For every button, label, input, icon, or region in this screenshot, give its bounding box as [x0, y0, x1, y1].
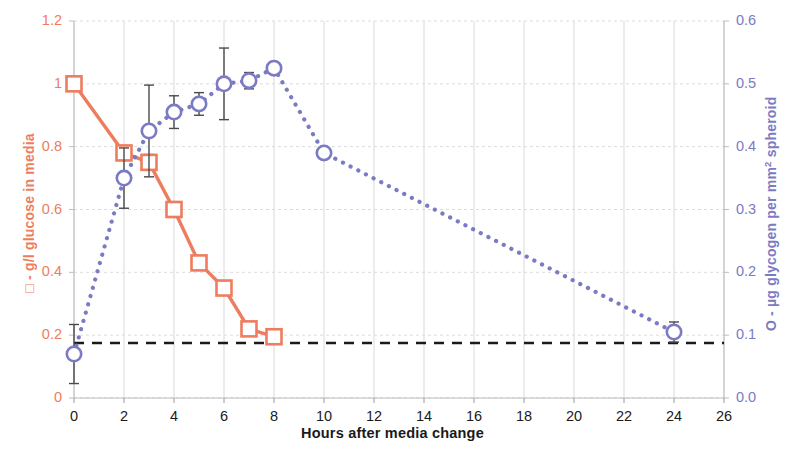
glucose-glycogen-chart: □ - g/l glucose in media O - µg glycogen…	[0, 0, 785, 452]
x-tick-label: 18	[504, 408, 544, 424]
x-tick-label: 6	[204, 408, 244, 424]
data-point-circle[interactable]	[142, 124, 156, 138]
data-point-square[interactable]	[67, 76, 82, 91]
x-tick-label: 14	[404, 408, 444, 424]
data-point-circle[interactable]	[217, 77, 231, 91]
x-axis-title: Hours after media change	[0, 425, 785, 441]
x-tick-label: 2	[104, 408, 144, 424]
y-tick-label-left: 0.8	[18, 138, 62, 154]
x-tick-label: 10	[304, 408, 344, 424]
data-point-circle[interactable]	[167, 105, 181, 119]
x-tick-label: 8	[254, 408, 294, 424]
x-tick-label: 26	[704, 408, 744, 424]
x-tick-label: 12	[354, 408, 394, 424]
y-tick-label-right: 0.2	[736, 263, 780, 279]
y-tick-label-left: 0.6	[18, 201, 62, 217]
data-point-circle[interactable]	[267, 61, 281, 75]
y-tick-label-right: 0.4	[736, 138, 780, 154]
y-tick-label-left: 1	[18, 75, 62, 91]
data-point-circle[interactable]	[67, 347, 81, 361]
data-point-square[interactable]	[167, 202, 182, 217]
data-point-square[interactable]	[192, 255, 207, 270]
y-tick-label-left: 0.4	[18, 263, 62, 279]
x-tick-label: 0	[54, 408, 94, 424]
y-tick-label-right: 0.0	[736, 389, 780, 405]
data-point-circle[interactable]	[192, 97, 206, 111]
x-tick-label: 22	[604, 408, 644, 424]
x-tick-label: 24	[654, 408, 694, 424]
plot-canvas	[0, 0, 785, 452]
x-tick-label: 16	[454, 408, 494, 424]
data-point-square[interactable]	[267, 329, 282, 344]
y-tick-label-right: 0.1	[736, 326, 780, 342]
y-tick-label-right: 0.6	[736, 12, 780, 28]
data-point-square[interactable]	[242, 321, 257, 336]
y-tick-label-right: 0.3	[736, 201, 780, 217]
y-tick-label-left: 1.2	[18, 12, 62, 28]
y-tick-label-left: 0	[18, 389, 62, 405]
data-point-circle[interactable]	[667, 325, 681, 339]
data-point-circle[interactable]	[117, 171, 131, 185]
data-point-circle[interactable]	[242, 73, 256, 87]
y-tick-label-right: 0.5	[736, 75, 780, 91]
x-tick-label: 4	[154, 408, 194, 424]
data-point-circle[interactable]	[317, 146, 331, 160]
data-point-square[interactable]	[217, 281, 232, 296]
y-tick-label-left: 0.2	[18, 326, 62, 342]
x-tick-label: 20	[554, 408, 594, 424]
